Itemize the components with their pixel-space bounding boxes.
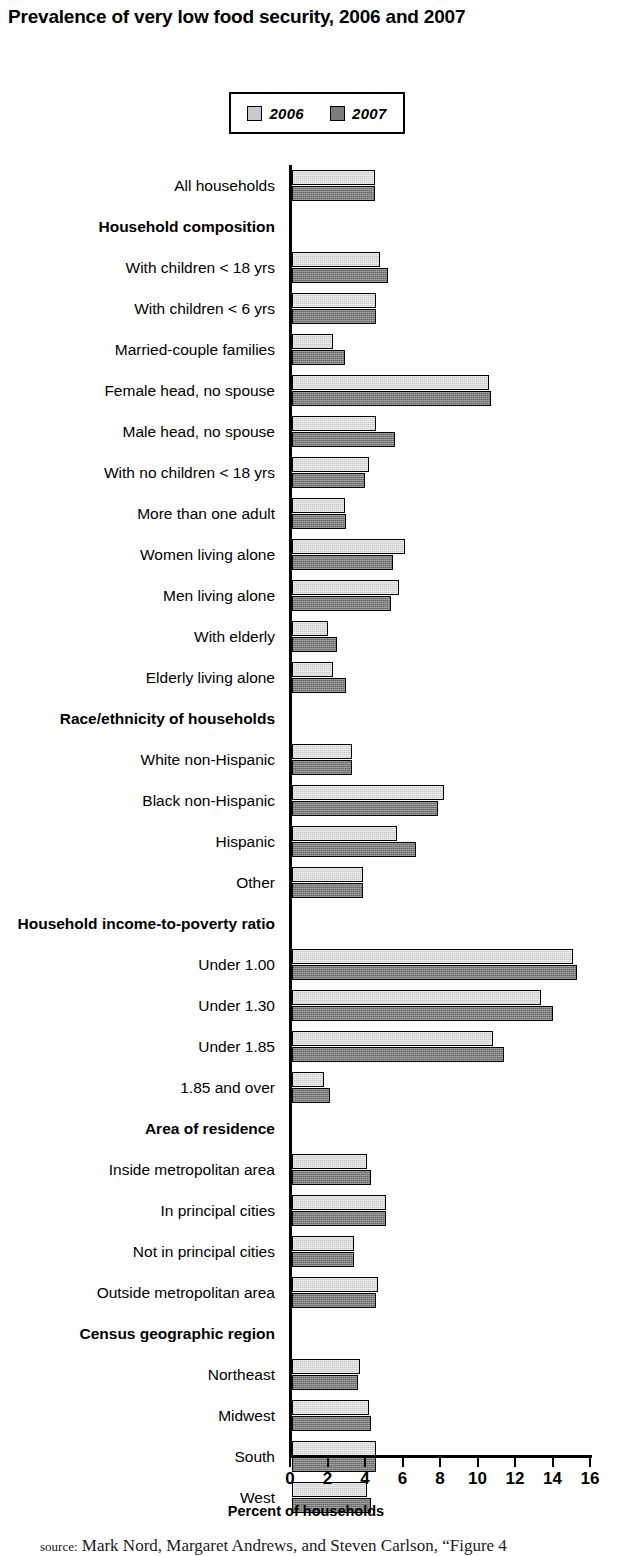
bar-2007 [292, 473, 365, 488]
value-axis-tick-label: 16 [581, 1469, 600, 1489]
bar-2007 [292, 1211, 386, 1226]
plot-area: All householdsHousehold compositionWith … [0, 165, 620, 1455]
value-axis-tick-label: 2 [323, 1469, 332, 1489]
bar-row-label: 1.85 and over [180, 1080, 275, 1096]
bar-row-label: With elderly [194, 629, 275, 645]
bar-row-label: Midwest [218, 1408, 275, 1424]
value-axis-tick-label: 14 [543, 1469, 562, 1489]
bar-2006 [292, 662, 333, 677]
bar-pair [292, 1071, 612, 1105]
bar-2007 [292, 186, 375, 201]
bar-2007 [292, 391, 491, 406]
bar-row: In principal cities [0, 1190, 620, 1231]
bar-row-label: With children < 6 yrs [134, 301, 275, 317]
bar-row: All households [0, 165, 620, 206]
bar-2007 [292, 1047, 504, 1062]
bar-row: More than one adult [0, 493, 620, 534]
bar-pair [292, 169, 612, 203]
bar-2007 [292, 309, 376, 324]
source-note-text: Mark Nord, Margaret Andrews, and Steven … [82, 1536, 507, 1555]
bar-2007 [292, 965, 577, 980]
bar-row-label: Men living alone [163, 588, 275, 604]
bar-2007 [292, 883, 363, 898]
bar-2006 [292, 375, 489, 390]
bar-row-label: Inside metropolitan area [109, 1162, 275, 1178]
bar-2007 [292, 350, 345, 365]
bar-2006 [292, 498, 345, 513]
bar-group-heading: Census geographic region [0, 1313, 620, 1354]
bar-2007 [292, 268, 388, 283]
bar-2006 [292, 252, 380, 267]
bar-pair [292, 1358, 612, 1392]
bar-2006 [292, 170, 375, 185]
bar-pair [292, 948, 612, 982]
value-axis-tick-label: 6 [398, 1469, 407, 1489]
legend-swatch-icon-2007 [330, 106, 345, 121]
bar-row-label: With children < 18 yrs [126, 260, 275, 276]
bar-row-label: Under 1.85 [198, 1039, 275, 1055]
bar-row-label: Women living alone [140, 547, 275, 563]
bar-row: Female head, no spouse [0, 370, 620, 411]
bar-row: With no children < 18 yrs [0, 452, 620, 493]
bar-row: Hispanic [0, 821, 620, 862]
bar-pair [292, 1399, 612, 1433]
bar-row-label: Hispanic [216, 834, 275, 850]
bar-2006 [292, 580, 399, 595]
bar-2007 [292, 555, 393, 570]
bar-2007 [292, 432, 395, 447]
bar-2006 [292, 1072, 324, 1087]
bar-group-heading: Race/ethnicity of households [0, 698, 620, 739]
value-axis-tick [289, 1458, 291, 1467]
bar-row: Men living alone [0, 575, 620, 616]
bar-2006 [292, 457, 369, 472]
bar-2006 [292, 1236, 354, 1251]
value-axis-tick [477, 1458, 479, 1467]
bar-2006 [292, 539, 405, 554]
bar-2006 [292, 1154, 367, 1169]
bar-2007 [292, 1293, 376, 1308]
bar-row: Under 1.00 [0, 944, 620, 985]
bar-row: Under 1.85 [0, 1026, 620, 1067]
bar-2006 [292, 1359, 360, 1374]
bar-2007 [292, 596, 391, 611]
bar-pair [292, 456, 612, 490]
bar-pair [292, 661, 612, 695]
bar-2007 [292, 1006, 553, 1021]
bar-2006 [292, 785, 444, 800]
bar-row-label: With no children < 18 yrs [104, 465, 275, 481]
bar-row-label: Household composition [98, 219, 275, 235]
bar-row-label: In principal cities [160, 1203, 275, 1219]
value-axis-tick-label: 8 [435, 1469, 444, 1489]
bar-row-label: All households [174, 178, 275, 194]
chart-title: Prevalence of very low food security, 20… [8, 6, 465, 28]
bar-pair [292, 333, 612, 367]
bar-group-heading: Household income-to-poverty ratio [0, 903, 620, 944]
bar-group-heading: Area of residence [0, 1108, 620, 1149]
source-note-prefix: source: [40, 1539, 78, 1554]
value-axis-tick-label: 4 [360, 1469, 369, 1489]
bar-row-label: Household income-to-poverty ratio [18, 916, 276, 932]
bar-pair [292, 579, 612, 613]
bar-2006 [292, 1277, 378, 1292]
source-note: source: Mark Nord, Margaret Andrews, and… [40, 1536, 507, 1556]
bar-row-label: Not in principal cities [133, 1244, 275, 1260]
bar-row: Elderly living alone [0, 657, 620, 698]
bar-pair [292, 825, 612, 859]
value-axis-tick [514, 1458, 516, 1467]
value-axis-tick [439, 1458, 441, 1467]
bar-2007 [292, 801, 438, 816]
value-axis-tick [327, 1458, 329, 1467]
bar-pair [292, 620, 612, 654]
bar-row-label: Male head, no spouse [122, 424, 275, 440]
bar-2006 [292, 1441, 376, 1456]
value-axis-tick [552, 1458, 554, 1467]
bar-2006 [292, 1031, 493, 1046]
bar-row: Black non-Hispanic [0, 780, 620, 821]
bar-row-label: Other [236, 875, 275, 891]
bar-row-label: Race/ethnicity of households [60, 711, 275, 727]
bar-2006 [292, 416, 376, 431]
bar-group-heading: Household composition [0, 206, 620, 247]
value-axis-tick [402, 1458, 404, 1467]
bar-pair [292, 1153, 612, 1187]
bar-pair [292, 1235, 612, 1269]
